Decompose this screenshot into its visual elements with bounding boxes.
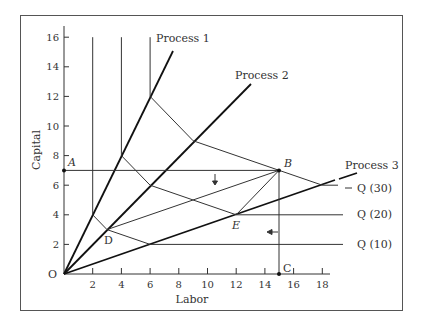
x-tick-label: 6 — [147, 279, 153, 290]
production-diagram: 2 4 6 8 10 12 14 16 2 4 6 8 10 12 14 16 … — [0, 0, 423, 329]
point-c — [277, 272, 281, 276]
y-tick-label: 8 — [53, 150, 59, 161]
x-tick-label: 10 — [201, 279, 214, 290]
process-3-ray-ext — [339, 173, 357, 179]
isoquant-labels: Q (30) Q (20) Q (10) — [345, 182, 392, 251]
isoquant-q10 — [93, 37, 343, 244]
process-labels: Process 1 Process 2 Process 3 — [156, 32, 399, 172]
x-tick-labels: 2 4 6 8 10 12 14 16 18 — [90, 279, 329, 290]
y-axis-label: Capital — [30, 130, 43, 171]
isoquant-q30 — [150, 37, 338, 185]
y-tick-label: 10 — [46, 121, 59, 132]
q30-label: Q (30) — [357, 182, 392, 195]
line-e-b — [236, 170, 279, 214]
x-tick-label: 8 — [176, 279, 182, 290]
arrow-left-icon — [267, 230, 278, 235]
process-1-ray — [64, 51, 173, 274]
y-tick-label: 6 — [53, 180, 59, 191]
label-a: A — [67, 156, 76, 169]
y-tick-label: 2 — [53, 239, 59, 250]
y-ticks — [64, 37, 69, 244]
x-tick-label: 16 — [287, 279, 300, 290]
process-3-label: Process 3 — [345, 159, 399, 172]
x-tick-label: 4 — [118, 279, 124, 290]
label-e: E — [231, 219, 240, 232]
point-a — [62, 168, 66, 172]
constraints — [64, 170, 279, 274]
point-b — [277, 168, 281, 172]
process-1-label: Process 1 — [156, 32, 210, 45]
q10-label: Q (10) — [357, 238, 392, 251]
q20-label: Q (20) — [357, 208, 392, 221]
x-tick-label: 12 — [230, 279, 243, 290]
x-axis-label: Labor — [176, 293, 210, 306]
arrow-down-icon — [213, 174, 218, 185]
process-2-ray — [64, 84, 251, 274]
x-tick-label: 18 — [316, 279, 329, 290]
line-d-b — [107, 170, 279, 229]
isoquants — [93, 37, 343, 244]
y-tick-label: 16 — [46, 32, 59, 43]
point-labels: A B C D E — [67, 156, 292, 275]
y-tick-labels: 2 4 6 8 10 12 14 16 — [46, 32, 59, 250]
label-c: C — [283, 262, 291, 275]
y-tick-label: 14 — [46, 61, 59, 72]
y-tick-label: 12 — [46, 91, 59, 102]
origin-label: O — [48, 268, 57, 281]
process-2-label: Process 2 — [235, 69, 289, 82]
points — [62, 168, 281, 276]
x-tick-label: 2 — [90, 279, 96, 290]
y-tick-label: 4 — [53, 209, 59, 220]
x-tick-label: 14 — [259, 279, 272, 290]
label-d: D — [104, 234, 113, 247]
label-b: B — [283, 157, 292, 170]
